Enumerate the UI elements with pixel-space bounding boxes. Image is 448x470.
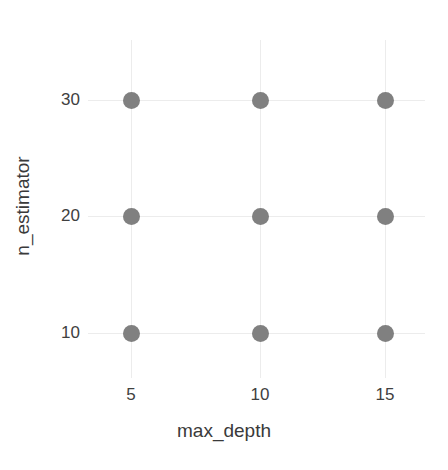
data-point bbox=[123, 208, 140, 225]
data-point bbox=[123, 325, 140, 342]
data-point bbox=[252, 208, 269, 225]
x-axis-tick-label: 15 bbox=[376, 385, 395, 405]
x-axis-tick-label: 10 bbox=[251, 385, 270, 405]
y-axis-title: n_estimator bbox=[12, 96, 34, 316]
data-point bbox=[123, 92, 140, 109]
scatter-plot-figure: 5 10 15 30 20 10 max_depth n_estimator bbox=[0, 0, 448, 470]
x-axis-tick-label: 5 bbox=[126, 385, 135, 405]
y-axis-tick-label: 20 bbox=[48, 206, 80, 226]
data-point bbox=[252, 325, 269, 342]
data-point bbox=[377, 325, 394, 342]
y-axis-tick-label: 30 bbox=[48, 90, 80, 110]
data-point bbox=[377, 208, 394, 225]
y-axis-tick-label: 10 bbox=[48, 323, 80, 343]
data-point bbox=[252, 92, 269, 109]
data-point bbox=[377, 92, 394, 109]
x-axis-title: max_depth bbox=[0, 420, 448, 442]
